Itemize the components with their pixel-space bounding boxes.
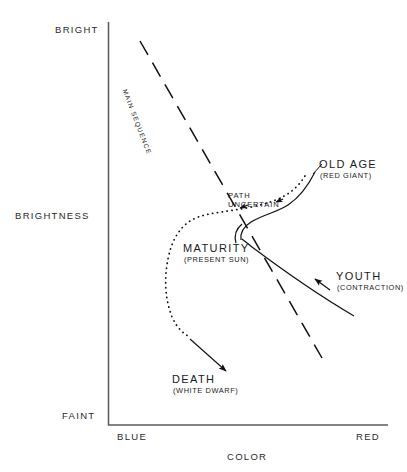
y-axis-top-label: BRIGHT: [55, 25, 99, 35]
diagram-canvas: [0, 0, 407, 472]
path-uncertain-label-line1: PATH: [228, 192, 251, 200]
death-arrow: [190, 339, 226, 371]
youth-sublabel: (CONTRACTION): [337, 284, 404, 292]
x-axis-title: COLOR: [227, 452, 267, 462]
maturity-sublabel: (PRESENT SUN): [184, 256, 249, 264]
x-axis-left-label: BLUE: [117, 432, 147, 442]
death-sublabel: (WHITE DWARF): [173, 387, 238, 395]
death-label: DEATH: [172, 374, 215, 386]
x-axis-right-label: RED: [356, 432, 380, 442]
y-axis-title: BRIGHTNESS: [15, 211, 90, 221]
hr-diagram-figure: BRIGHT BRIGHTNESS FAINT BLUE RED COLOR M…: [0, 0, 407, 472]
youth-label: YOUTH: [336, 271, 382, 283]
old-age-sublabel: (RED GIANT): [320, 172, 372, 180]
path-uncertain-label-line2: UNCERTAIN: [228, 201, 280, 209]
old-age-label: OLD AGE: [319, 159, 377, 171]
maturity-label: MATURITY: [183, 243, 250, 255]
y-axis-bottom-label: FAINT: [62, 411, 95, 421]
